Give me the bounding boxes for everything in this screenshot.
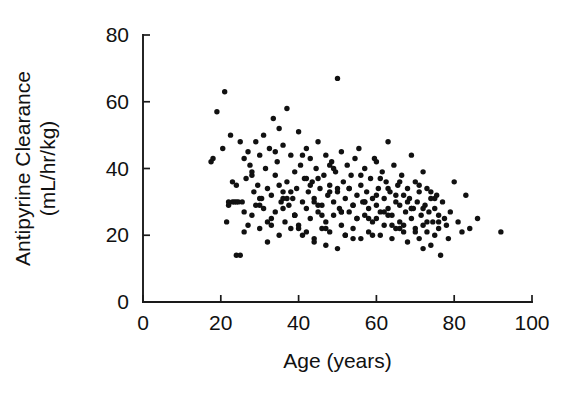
- data-point: [467, 226, 472, 231]
- data-point: [459, 229, 464, 234]
- data-point: [475, 216, 480, 221]
- data-point: [446, 236, 451, 241]
- data-point: [362, 166, 367, 171]
- data-point: [424, 219, 429, 224]
- data-point: [273, 149, 278, 154]
- data-point: [228, 132, 233, 137]
- data-point: [498, 229, 503, 234]
- data-point: [304, 146, 309, 151]
- data-point: [366, 216, 371, 221]
- data-point: [294, 186, 299, 191]
- y-tick-label-80: 80: [106, 23, 129, 46]
- data-point: [304, 206, 309, 211]
- data-point: [210, 156, 215, 161]
- x-tick-label-20: 20: [209, 311, 232, 334]
- data-point: [243, 176, 248, 181]
- data-point: [245, 223, 250, 228]
- data-point: [315, 203, 320, 208]
- data-point: [389, 223, 394, 228]
- data-point: [405, 199, 410, 204]
- data-point: [241, 209, 246, 214]
- data-point: [257, 196, 262, 201]
- data-point: [319, 213, 324, 218]
- data-point: [331, 199, 336, 204]
- x-tick-label-40: 40: [287, 311, 310, 334]
- data-point: [282, 219, 287, 224]
- data-point: [393, 193, 398, 198]
- data-point: [257, 226, 262, 231]
- data-point: [356, 146, 361, 151]
- data-point: [391, 162, 396, 167]
- data-point: [428, 189, 433, 194]
- data-point: [280, 206, 285, 211]
- data-point: [378, 233, 383, 238]
- data-point: [339, 149, 344, 154]
- data-point: [362, 199, 367, 204]
- data-point: [376, 186, 381, 191]
- data-point: [317, 186, 322, 191]
- data-point: [284, 106, 289, 111]
- data-point: [358, 236, 363, 241]
- data-point: [304, 229, 309, 234]
- data-point: [350, 236, 355, 241]
- data-point: [403, 209, 408, 214]
- data-point: [263, 166, 268, 171]
- data-point: [300, 199, 305, 204]
- data-point: [381, 196, 386, 201]
- x-axis-title: Age (years): [283, 349, 392, 372]
- data-point: [348, 172, 353, 177]
- data-point: [327, 182, 332, 187]
- data-point: [383, 179, 388, 184]
- data-point: [265, 239, 270, 244]
- y-axis-title-line-1: Antipyrine Clearance: [11, 71, 34, 266]
- data-point: [304, 176, 309, 181]
- data-point: [401, 193, 406, 198]
- data-point: [420, 169, 425, 174]
- data-point: [413, 229, 418, 234]
- data-point: [335, 246, 340, 251]
- data-point: [416, 182, 421, 187]
- data-point: [290, 196, 295, 201]
- data-point: [385, 213, 390, 218]
- data-point: [234, 182, 239, 187]
- data-point: [430, 219, 435, 224]
- data-point: [354, 193, 359, 198]
- data-point: [315, 139, 320, 144]
- data-point: [368, 176, 373, 181]
- data-point: [286, 203, 291, 208]
- data-point: [432, 206, 437, 211]
- data-point: [420, 206, 425, 211]
- data-point: [245, 149, 250, 154]
- data-point: [323, 226, 328, 231]
- data-point: [350, 226, 355, 231]
- data-point: [415, 199, 420, 204]
- data-point: [296, 129, 301, 134]
- data-point: [323, 152, 328, 157]
- data-point: [409, 206, 414, 211]
- data-point: [339, 223, 344, 228]
- data-point: [405, 239, 410, 244]
- data-point: [323, 219, 328, 224]
- data-point: [370, 233, 375, 238]
- data-point: [374, 216, 379, 221]
- data-point: [335, 76, 340, 81]
- data-point: [288, 152, 293, 157]
- data-point: [288, 189, 293, 194]
- data-point: [374, 193, 379, 198]
- data-point: [428, 243, 433, 248]
- data-points: [208, 76, 503, 258]
- data-point: [308, 216, 313, 221]
- data-point: [397, 226, 402, 231]
- data-point: [253, 139, 258, 144]
- x-tick-label-80: 80: [443, 311, 466, 334]
- data-point: [269, 193, 274, 198]
- data-point: [366, 206, 371, 211]
- data-point: [397, 179, 402, 184]
- data-point: [239, 199, 244, 204]
- data-point: [284, 179, 289, 184]
- data-point: [339, 209, 344, 214]
- data-point: [432, 233, 437, 238]
- data-point: [257, 203, 262, 208]
- data-point: [346, 209, 351, 214]
- data-point: [335, 186, 340, 191]
